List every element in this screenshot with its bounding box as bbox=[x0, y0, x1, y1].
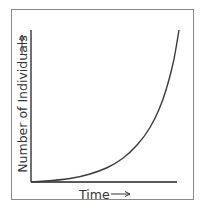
x-arrow-icon bbox=[111, 192, 130, 197]
y-axis-label: Number of Individuals bbox=[15, 35, 30, 173]
growth-curve bbox=[31, 30, 179, 182]
growth-chart bbox=[0, 0, 202, 212]
x-axis-label: Time bbox=[79, 187, 110, 202]
